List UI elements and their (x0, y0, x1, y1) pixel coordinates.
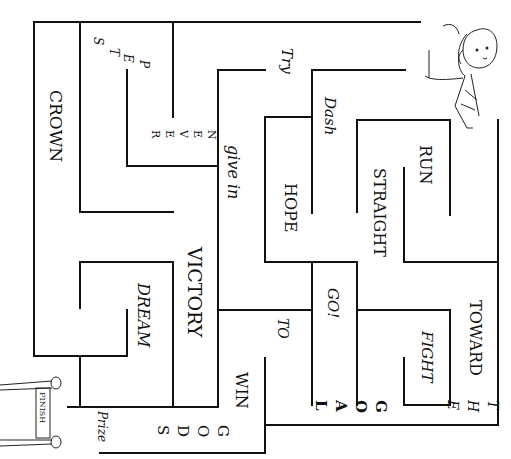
svg-text:O: O (352, 400, 370, 413)
svg-text:G: G (372, 400, 390, 413)
svg-text:D: D (174, 425, 192, 437)
word-never: N E V E R (149, 129, 218, 140)
svg-text:N: N (205, 130, 218, 140)
word-give-in: give in (224, 145, 243, 199)
svg-text:E: E (163, 130, 176, 138)
maze-walls (34, 22, 498, 453)
word-go: GO! (324, 288, 342, 318)
word-run: RUN (416, 145, 435, 185)
word-hope: HOPE (281, 183, 300, 233)
word-dash: Dash (321, 96, 339, 135)
maze-board: CROWN Try give in Dash HOPE RUN STRAIGHT… (0, 0, 511, 459)
finish-label: FINISH (38, 392, 47, 423)
svg-text:H: H (465, 399, 481, 413)
svg-text:E: E (191, 130, 204, 138)
svg-text:G: G (214, 425, 232, 437)
word-fight: FIGHT (418, 330, 436, 383)
word-gods: G O D S (154, 425, 232, 437)
word-to: TO (275, 318, 291, 339)
finish-line-icon: FINISH (0, 377, 61, 448)
word-try: Try (278, 48, 296, 74)
svg-text:R: R (149, 130, 162, 139)
runner-girl-icon (425, 24, 497, 128)
svg-text:E: E (445, 399, 461, 410)
svg-text:L: L (312, 400, 330, 411)
svg-text:E: E (121, 53, 135, 63)
word-toward: TOWARD (466, 300, 485, 376)
svg-text:T: T (107, 48, 121, 57)
word-the: T H E (445, 399, 501, 413)
word-steps: S T E P (91, 37, 151, 69)
svg-text:A: A (332, 399, 350, 412)
svg-text:V: V (177, 129, 190, 139)
svg-text:O: O (194, 425, 212, 437)
word-dream: DREAM (134, 282, 153, 348)
word-win: WIN (232, 372, 251, 409)
word-prize: Prize (95, 410, 109, 442)
svg-text:S: S (91, 37, 105, 45)
svg-text:S: S (154, 425, 172, 435)
svg-text:P: P (137, 59, 151, 69)
word-straight: STRAIGHT (370, 168, 389, 257)
word-goal: G O A L (312, 399, 390, 413)
word-victory: VICTORY (184, 246, 206, 338)
word-crown: CROWN (46, 90, 66, 162)
